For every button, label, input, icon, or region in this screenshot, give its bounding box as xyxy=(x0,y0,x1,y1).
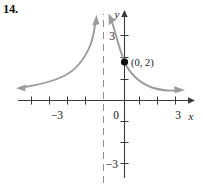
annotated-point-group: (0, 2) xyxy=(121,57,154,69)
y-axis-arrowhead xyxy=(121,10,127,17)
curve-right-arrow-right xyxy=(174,86,185,93)
curve-left-branch xyxy=(16,15,99,92)
figure-container: 14. −3 0 3 x xyxy=(0,0,203,186)
curve-left-path xyxy=(22,25,95,88)
x-axis-title: x xyxy=(188,110,194,122)
x-tick-label-zero: 0 xyxy=(113,109,119,121)
point-marker-0-2 xyxy=(121,58,128,65)
y-axis-group: 3 −3 y xyxy=(106,8,129,178)
x-tick-label-3: 3 xyxy=(175,109,181,121)
y-axis-title: y xyxy=(114,8,120,20)
y-tick-label-neg3: −3 xyxy=(106,158,118,170)
curve-left-arrow-up xyxy=(92,15,99,26)
curve-right-branch xyxy=(109,14,186,94)
x-tick-label-neg3: −3 xyxy=(51,109,63,121)
curve-left-arrow-left xyxy=(16,85,26,92)
x-axis-group: −3 0 3 x xyxy=(18,97,195,123)
point-label-0-2: (0, 2) xyxy=(131,57,154,69)
x-axis-arrowhead xyxy=(188,97,195,104)
graph-plot: −3 0 3 x 3 −3 y xyxy=(0,0,203,186)
